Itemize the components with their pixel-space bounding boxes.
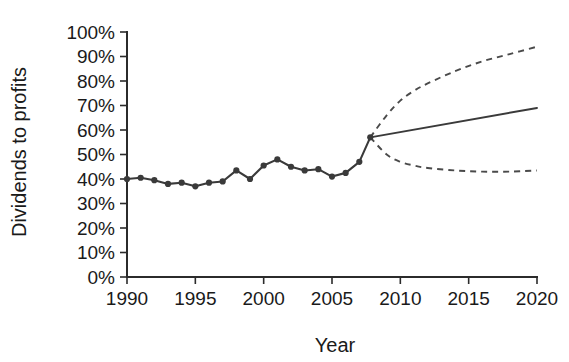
y-tick-label: 70% — [77, 95, 115, 116]
x-tick-label: 1990 — [106, 288, 148, 309]
dividends-to-profits-chart: 0%10%20%30%40%50%60%70%80%90%100% 199019… — [0, 0, 569, 362]
y-tick-label: 80% — [77, 71, 115, 92]
data-point — [343, 170, 349, 176]
y-axis-title: Dividends to profits — [8, 67, 30, 237]
data-point — [165, 181, 171, 187]
data-point — [274, 156, 280, 162]
data-point — [206, 180, 212, 186]
data-point — [233, 167, 239, 173]
x-tick-marks — [127, 277, 537, 284]
data-point — [261, 162, 267, 168]
central-projection-line — [370, 108, 537, 137]
data-series-group — [124, 47, 537, 190]
y-tick-label: 10% — [77, 242, 115, 263]
x-tick-label: 2000 — [243, 288, 285, 309]
chart-canvas: 0%10%20%30%40%50%60%70%80%90%100% 199019… — [0, 0, 569, 362]
x-axis-group: 1990199520002005201020152020 — [106, 277, 558, 309]
data-point — [247, 176, 253, 182]
y-tick-label: 60% — [77, 120, 115, 141]
y-tick-label: 0% — [88, 267, 116, 288]
x-tick-label: 2015 — [448, 288, 490, 309]
lower-projection-line — [370, 137, 537, 171]
data-point — [179, 180, 185, 186]
x-tick-labels: 1990199520002005201020152020 — [106, 288, 558, 309]
data-point — [124, 176, 130, 182]
y-tick-marks — [120, 32, 127, 277]
y-tick-label: 40% — [77, 169, 115, 190]
data-point — [356, 159, 362, 165]
y-tick-label: 100% — [66, 22, 115, 43]
y-axis-group: 0%10%20%30%40%50%60%70%80%90%100% — [66, 22, 127, 288]
x-tick-label: 2010 — [379, 288, 421, 309]
data-point — [192, 183, 198, 189]
x-axis-title: Year — [315, 334, 356, 356]
data-point — [329, 173, 335, 179]
data-point — [288, 164, 294, 170]
data-point — [302, 167, 308, 173]
x-tick-label: 2020 — [516, 288, 558, 309]
y-tick-labels: 0%10%20%30%40%50%60%70%80%90%100% — [66, 22, 115, 288]
y-tick-label: 90% — [77, 46, 115, 67]
x-tick-label: 2005 — [311, 288, 353, 309]
y-tick-label: 50% — [77, 144, 115, 165]
upper-projection-line — [370, 47, 537, 138]
y-tick-label: 20% — [77, 218, 115, 239]
x-tick-label: 1995 — [174, 288, 216, 309]
y-tick-label: 30% — [77, 193, 115, 214]
data-point — [315, 166, 321, 172]
data-point — [138, 175, 144, 181]
data-point — [151, 177, 157, 183]
data-point — [367, 134, 373, 140]
data-point — [220, 178, 226, 184]
